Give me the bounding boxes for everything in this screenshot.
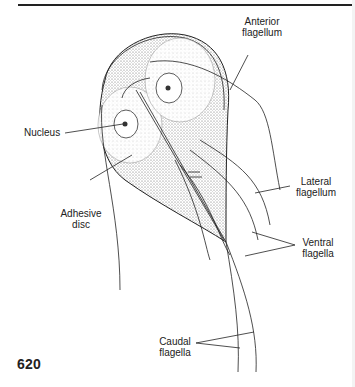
label-line: flagellum <box>286 187 346 198</box>
label-caudal-flagella: Caudal flagella <box>154 336 196 358</box>
label-adhesive-disc: Adhesive disc <box>55 208 107 230</box>
leader-ventral-1 <box>252 232 295 245</box>
leader-caudal-2 <box>196 343 240 348</box>
leader-lateral-flagellum <box>255 186 290 193</box>
leader-ventral-2 <box>245 245 295 256</box>
label-lateral-flagellum: Lateral flagellum <box>286 176 346 198</box>
label-line: Ventral <box>292 237 344 248</box>
label-ventral-flagella: Ventral flagella <box>292 237 344 259</box>
label-line: Adhesive <box>55 208 107 219</box>
label-line: Anterior <box>232 16 292 27</box>
page-number: 620 <box>17 356 41 372</box>
label-line: Nucleus <box>24 127 66 138</box>
leader-caudal-1 <box>196 332 254 343</box>
label-nucleus: Nucleus <box>24 127 66 138</box>
label-anterior-flagellum: Anterior flagellum <box>232 16 292 38</box>
leader-anterior-flagellum <box>230 55 248 90</box>
label-line: Lateral <box>286 176 346 187</box>
nucleus-left <box>114 110 138 138</box>
label-line: flagella <box>154 347 196 358</box>
caudal-flagella <box>226 242 256 372</box>
nucleus-right <box>156 73 182 103</box>
label-line: disc <box>55 219 107 230</box>
label-line: Caudal <box>154 336 196 347</box>
label-line: flagella <box>292 248 344 259</box>
label-line: flagellum <box>232 27 292 38</box>
